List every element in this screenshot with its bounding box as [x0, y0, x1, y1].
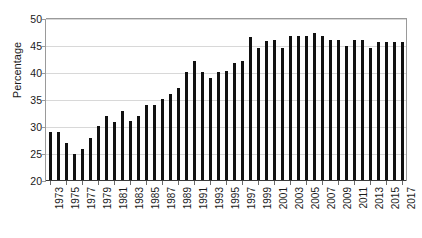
x-axis-tick-mark	[162, 181, 163, 185]
y-axis-tick-mark	[42, 46, 46, 47]
bar	[281, 48, 284, 181]
bar	[385, 42, 388, 181]
x-axis-tick-mark	[338, 181, 339, 185]
y-axis-tick-mark	[42, 73, 46, 74]
y-axis-tick-label: 20	[0, 175, 42, 187]
bar	[249, 37, 252, 181]
bar-series	[46, 19, 406, 181]
x-axis-tick-mark	[82, 181, 83, 185]
x-axis-tick-label: 1985	[150, 187, 161, 209]
x-axis-tick-mark	[386, 181, 387, 185]
x-axis-tick-label: 1991	[198, 187, 209, 209]
bar	[57, 132, 60, 181]
bar	[337, 40, 340, 181]
x-axis-tick-mark	[242, 181, 243, 185]
bar	[369, 48, 372, 181]
x-axis-tick-mark	[354, 181, 355, 185]
bar	[257, 48, 260, 181]
bar	[265, 41, 268, 181]
x-axis-tick-mark	[178, 181, 179, 185]
y-axis-tick-label: 25	[0, 148, 42, 160]
x-axis-tick-label: 2017	[406, 187, 417, 209]
bar	[201, 72, 204, 181]
x-axis-tick-mark	[114, 181, 115, 185]
bar	[321, 36, 324, 181]
y-axis-tick-label: 45	[0, 40, 42, 52]
x-axis-tick-label: 1979	[102, 187, 113, 209]
x-axis-tick-mark	[370, 181, 371, 185]
bar	[161, 99, 164, 181]
bar	[73, 154, 76, 181]
x-axis-tick-mark	[98, 181, 99, 185]
x-axis-tick-mark	[402, 181, 403, 185]
x-axis-tick-label: 2005	[310, 187, 321, 209]
y-axis-tick-mark	[42, 19, 46, 20]
x-axis-line	[45, 180, 406, 181]
y-axis-tick-mark	[42, 154, 46, 155]
bar	[305, 36, 308, 181]
y-axis-tick-mark	[42, 127, 46, 128]
x-axis-tick-label: 2007	[326, 187, 337, 209]
x-axis-tick-mark	[226, 181, 227, 185]
bar	[137, 116, 140, 181]
bar	[89, 138, 92, 181]
bar	[129, 121, 132, 181]
x-axis-tick-label: 1983	[134, 187, 145, 209]
bar	[145, 105, 148, 181]
y-axis-tick-mark	[42, 100, 46, 101]
bar	[233, 63, 236, 181]
x-axis-tick-label: 2003	[294, 187, 305, 209]
bar	[105, 116, 108, 181]
y-axis-tick-label: 30	[0, 121, 42, 133]
bar	[121, 111, 124, 181]
y-axis-tick-label: 40	[0, 67, 42, 79]
bar	[113, 122, 116, 181]
bar	[361, 40, 364, 181]
bar	[289, 36, 292, 181]
bar	[241, 61, 244, 181]
x-axis-tick-label: 2001	[278, 187, 289, 209]
bar	[153, 105, 156, 181]
bar	[65, 143, 68, 181]
x-axis-tick-mark	[146, 181, 147, 185]
y-axis-tick-label: 35	[0, 94, 42, 106]
x-axis-tick-label: 2011	[358, 187, 369, 209]
bar	[313, 33, 316, 181]
bar	[329, 40, 332, 181]
x-axis-tick-mark	[322, 181, 323, 185]
x-axis-tick-label: 1987	[166, 187, 177, 209]
x-axis-tick-label: 1973	[54, 187, 65, 209]
x-axis-tick-label: 1993	[214, 187, 225, 209]
bar	[345, 46, 348, 181]
bar	[393, 42, 396, 181]
bar	[193, 61, 196, 181]
bar-chart: Percentage 20253035404550 19731975197719…	[0, 0, 422, 238]
plot-area: 20253035404550 1973197519771979198119831…	[46, 18, 407, 181]
x-axis-tick-label: 1981	[118, 187, 129, 209]
x-axis-tick-label: 2013	[374, 187, 385, 209]
bar	[353, 40, 356, 181]
bar	[401, 42, 404, 181]
bar	[97, 126, 100, 181]
bar	[273, 40, 276, 181]
bar	[217, 72, 220, 181]
bar	[377, 42, 380, 181]
bar	[209, 78, 212, 181]
bar	[297, 36, 300, 181]
x-axis-tick-label: 1977	[86, 187, 97, 209]
x-axis-tick-mark	[130, 181, 131, 185]
bar	[185, 72, 188, 181]
x-axis-tick-mark	[194, 181, 195, 185]
x-axis-tick-label: 1997	[246, 187, 257, 209]
bar	[225, 71, 228, 181]
x-axis-tick-label: 1975	[70, 187, 81, 209]
x-axis-tick-mark	[290, 181, 291, 185]
x-axis-tick-label: 1989	[182, 187, 193, 209]
bar	[169, 94, 172, 181]
bar	[177, 88, 180, 181]
x-axis-tick-label: 1995	[230, 187, 241, 209]
x-axis-tick-mark	[210, 181, 211, 185]
x-axis-tick-mark	[66, 181, 67, 185]
bar	[49, 132, 52, 181]
x-axis-tick-mark	[306, 181, 307, 185]
